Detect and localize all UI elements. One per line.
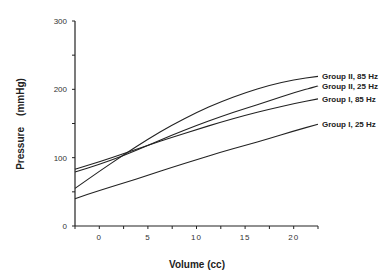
y-axis-label: Pressure (mmHg): [15, 78, 26, 170]
x-tick-label: 10: [191, 233, 202, 242]
x-tick-label: 0: [97, 233, 102, 242]
y-tick-label: 100: [54, 154, 68, 163]
x-axis-label: Volume (cc): [169, 259, 225, 270]
series-line: [75, 124, 318, 198]
y-tick-label: 300: [54, 17, 68, 26]
y-tick-label: 200: [54, 85, 68, 94]
legend-label: Group I, 25 Hz: [322, 120, 376, 129]
legend: Group II, 85 HzGroup II, 25 HzGroup I, 8…: [322, 72, 378, 129]
legend-label: Group I, 85 Hz: [322, 95, 376, 104]
series-line: [75, 99, 318, 169]
legend-label: Group II, 25 Hz: [322, 82, 378, 91]
x-tick-label: 5: [145, 233, 150, 242]
data-lines: [75, 76, 318, 198]
y-tick-label: 0: [63, 222, 68, 231]
legend-label: Group II, 85 Hz: [322, 72, 378, 81]
chart: 010020030005101520 Group II, 85 HzGroup …: [0, 0, 392, 279]
x-tick-label: 15: [240, 233, 251, 242]
series-line: [75, 76, 318, 188]
x-tick-label: 20: [288, 233, 299, 242]
series-line: [75, 86, 318, 172]
